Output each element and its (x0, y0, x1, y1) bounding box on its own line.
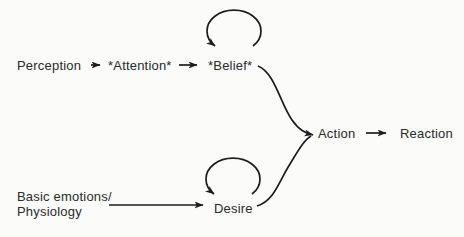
node-belief: *Belief* (208, 58, 252, 73)
node-basic-emotions-line1: Basic emotions/ (17, 189, 112, 204)
node-attention: *Attention* (108, 58, 172, 73)
edge-desire-action-arrow (257, 136, 311, 206)
node-perception: Perception (17, 58, 81, 73)
node-action: Action (318, 126, 355, 141)
node-reaction: Reaction (400, 126, 453, 141)
desire-self-loop-arrow (206, 158, 260, 194)
node-basic-emotions-physiology: Basic emotions/ Physiology (17, 190, 127, 219)
belief-self-loop-arrow (207, 10, 261, 46)
flow-diagram: Perception *Attention* *Belief* Action R… (0, 0, 464, 237)
edge-belief-action-arrow (258, 66, 313, 135)
node-desire: Desire (214, 201, 253, 216)
node-basic-emotions-line2: Physiology (17, 204, 82, 219)
